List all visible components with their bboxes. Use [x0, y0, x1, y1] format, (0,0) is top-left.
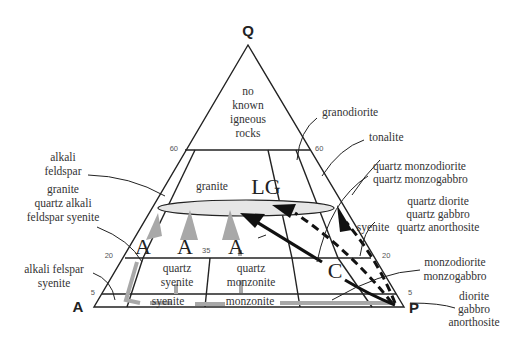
svg-text:quartz: quartz	[237, 262, 266, 275]
svg-text:feldspar: feldspar	[44, 165, 81, 178]
svg-text:quartz monzogabbro: quartz monzogabbro	[373, 173, 468, 186]
svg-text:anorthosite: anorthosite	[448, 316, 499, 328]
svg-text:quartz diorite: quartz diorite	[407, 195, 469, 208]
svg-text:igneous: igneous	[230, 113, 266, 126]
svg-text:feldspar syenite: feldspar syenite	[27, 211, 100, 224]
svg-text:rocks: rocks	[236, 127, 261, 139]
tick-5-left: 5	[91, 288, 95, 297]
vertex-a-label: A	[73, 298, 84, 315]
field-syenite: syenite	[152, 295, 185, 308]
tick-60-right: 60	[315, 144, 323, 153]
svg-text:no: no	[242, 85, 254, 97]
trend-label-a3: A	[228, 234, 244, 259]
trend-label-lg: LG	[251, 174, 280, 199]
label-quartz-monzodiorite: quartz monzodiorite quartz monzogabbro	[373, 160, 468, 186]
svg-text:monzodiorite: monzodiorite	[424, 256, 485, 268]
qap-diagram: Q A P 60 60 20 20 5 5 35 no known igneou…	[0, 0, 517, 344]
svg-text:quartz: quartz	[163, 262, 192, 275]
svg-text:syenite: syenite	[161, 276, 194, 289]
trend-label-a1: A	[135, 234, 151, 259]
tick-20-right: 20	[382, 251, 390, 260]
label-tonalite: tonalite	[369, 131, 404, 143]
vertex-p-label: P	[409, 299, 419, 316]
svg-text:monzogabbro: monzogabbro	[423, 270, 486, 283]
dashed-arrowhead-2	[337, 205, 352, 232]
svg-text:known: known	[232, 99, 264, 111]
field-quartz-monzonite: quartz monzonite	[227, 262, 276, 288]
svg-text:quartz alkali: quartz alkali	[34, 197, 91, 210]
svg-text:quartz gabbro: quartz gabbro	[406, 208, 470, 221]
label-alkali-felspar-syenite: alkali felspar syenite	[24, 263, 84, 290]
svg-text:granite: granite	[47, 183, 79, 196]
field-granite: granite	[196, 180, 228, 193]
tick-35: 35	[202, 246, 210, 255]
label-quartz-diorite: quartz diorite quartz gabbro quartz anor…	[397, 195, 480, 234]
svg-text:syenite: syenite	[38, 277, 71, 290]
label-alkali-feldspar: alkali feldspar	[44, 151, 81, 178]
svg-text:quartz monzodiorite: quartz monzodiorite	[373, 160, 466, 173]
field-no-known-igneous-rocks: no known igneous rocks	[230, 85, 266, 139]
svg-text:alkali felspar: alkali felspar	[24, 263, 84, 276]
label-diorite-gabbro-anorthosite: diorite gabbro anorthosite	[448, 290, 499, 328]
label-granite-quartz-alkali-feldspar-syenite: granite quartz alkali feldspar syenite	[27, 183, 100, 224]
svg-text:alkali: alkali	[50, 151, 76, 163]
field-quartz-syenite: quartz syenite	[161, 262, 194, 289]
label-monzodiorite: monzodiorite monzogabbro	[423, 256, 486, 283]
svg-text:gabbro: gabbro	[458, 303, 490, 316]
tick-20-left: 20	[105, 251, 113, 260]
svg-text:diorite: diorite	[459, 290, 489, 302]
svg-text:monzonite: monzonite	[227, 276, 276, 288]
trend-label-a2: A	[177, 234, 193, 259]
label-granodiorite: granodiorite	[322, 106, 378, 119]
tick-60-left: 60	[170, 144, 178, 153]
svg-text:quartz anorthosite: quartz anorthosite	[397, 221, 480, 234]
tick-5-right: 5	[408, 288, 412, 297]
field-monzonite: monzonite	[226, 295, 275, 307]
vertex-q-label: Q	[242, 22, 254, 39]
trend-label-c: C	[328, 258, 343, 283]
label-syenite-right: syenite	[357, 221, 390, 234]
